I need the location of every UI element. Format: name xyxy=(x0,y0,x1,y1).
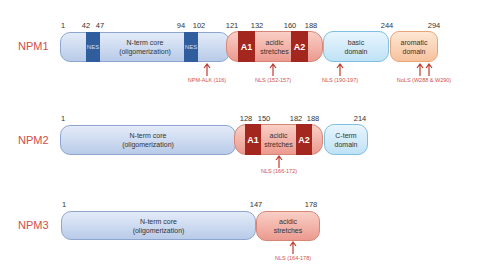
npm2-pos-128: 128 xyxy=(240,114,253,123)
nterm-line1: N-term core xyxy=(133,217,185,226)
npm1-pos-132: 132 xyxy=(251,21,264,30)
nterm-line2: (oligomerization) xyxy=(133,226,185,235)
nterm-line2: (oligomerization) xyxy=(122,140,174,149)
npm3-pos-1: 1 xyxy=(62,200,66,209)
npm2-cterm-domain: C-term domain xyxy=(324,124,368,155)
npm3-acidic-domain: acidic stretches xyxy=(256,211,320,241)
nterm-line1: N-term core xyxy=(122,131,174,140)
up-arrow-icon xyxy=(289,241,297,254)
up-arrow-icon xyxy=(269,63,277,76)
npm3-label: NPM3 xyxy=(18,219,49,231)
npm1-aromatic-domain: aromatic domain xyxy=(390,31,438,62)
npm2-pos-182: 182 xyxy=(290,114,303,123)
acidic-line1: acidic xyxy=(260,38,288,47)
nterm-line2: (oligomerization) xyxy=(119,47,171,56)
npm3-pos-147: 147 xyxy=(250,200,263,209)
npm1-nes-2: NES xyxy=(184,32,198,62)
npm1-pos-294: 294 xyxy=(428,21,441,30)
npm1-pos-188: 188 xyxy=(305,21,318,30)
aromatic-line1: aromatic xyxy=(401,38,428,47)
npm3-annotation-nls: NLS (164-178) xyxy=(275,255,311,261)
npm2-annotation-nls: NLS (166-172) xyxy=(261,168,297,174)
npm2-cterm-text: C-term domain xyxy=(335,131,358,149)
npm1-nes-1: NES xyxy=(86,32,100,62)
acidic-line2: stretches xyxy=(264,140,292,149)
up-arrow-icon xyxy=(416,63,424,76)
npm2-pos-150: 150 xyxy=(258,114,271,123)
cterm-line2: domain xyxy=(335,140,358,149)
up-arrow-icon xyxy=(275,155,283,168)
npm1-pos-121: 121 xyxy=(226,21,239,30)
basic-line1: basic xyxy=(345,38,368,47)
npm1-pos-47: 47 xyxy=(96,21,104,30)
acidic-line2: stretches xyxy=(260,47,288,56)
npm1-basic-text: basic domain xyxy=(345,38,368,56)
npm1-a2-box: A2 xyxy=(291,31,308,62)
npm1-annotation-npm-alk: NPM-ALK (116) xyxy=(188,77,226,83)
npm3-nterm-domain: N-term core (oligomerization) xyxy=(61,211,256,240)
npm3-nterm-text: N-term core (oligomerization) xyxy=(133,217,185,235)
npm2-pos-188: 188 xyxy=(307,114,320,123)
npm1-pos-102: 102 xyxy=(193,21,206,30)
acidic-line2: stretches xyxy=(274,226,302,235)
basic-line2: domain xyxy=(345,47,368,56)
npm1-nterm-text: N-term core (oligomerization) xyxy=(119,38,171,56)
npm1-label: NPM1 xyxy=(18,40,49,52)
npm1-a1-box: A1 xyxy=(238,31,255,62)
acidic-line1: acidic xyxy=(264,131,292,140)
acidic-line1: acidic xyxy=(274,217,302,226)
npm3-acidic-text: acidic stretches xyxy=(274,217,302,235)
npm2-nterm-domain: N-term core (oligomerization) xyxy=(60,125,236,155)
npm2-a2-box: A2 xyxy=(296,124,312,155)
npm1-annotation-nls-1: NLS (152-157) xyxy=(255,77,291,83)
npm2-a1-box: A1 xyxy=(245,124,261,155)
cterm-line1: C-term xyxy=(335,131,358,140)
npm1-annotation-nols: NoLS (W288 & W290) xyxy=(397,77,451,83)
npm1-pos-94: 94 xyxy=(177,21,185,30)
npm1-pos-1: 1 xyxy=(61,21,65,30)
npm2-pos-1: 1 xyxy=(61,114,65,123)
npm1-pos-244: 244 xyxy=(381,21,394,30)
npm1-pos-42: 42 xyxy=(82,21,90,30)
npm1-aromatic-text: aromatic domain xyxy=(401,38,428,56)
npm2-label: NPM2 xyxy=(18,134,49,146)
up-arrow-icon xyxy=(336,63,344,76)
npm2-acidic-text: acidic stretches xyxy=(264,131,292,149)
npm2-pos-214: 214 xyxy=(354,114,367,123)
nterm-line1: N-term core xyxy=(119,38,171,47)
npm1-annotation-nls-2: NLS (190-197) xyxy=(322,77,358,83)
npm2-nterm-text: N-term core (oligomerization) xyxy=(122,131,174,149)
up-arrow-icon xyxy=(425,63,433,76)
aromatic-line2: domain xyxy=(401,47,428,56)
up-arrow-icon xyxy=(203,63,211,76)
npm3-pos-178: 178 xyxy=(305,200,318,209)
npm1-basic-domain: basic domain xyxy=(323,31,389,62)
npm1-acidic-text: acidic stretches xyxy=(260,38,288,56)
npm1-pos-160: 160 xyxy=(284,21,297,30)
